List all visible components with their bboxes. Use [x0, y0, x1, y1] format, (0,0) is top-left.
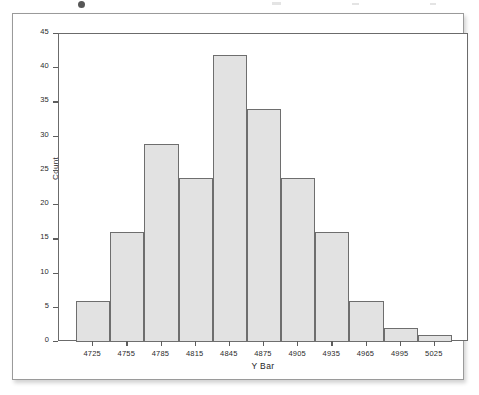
- histogram-bar: [281, 178, 315, 342]
- x-tick-mark: [92, 341, 93, 346]
- y-tick-label: 0: [45, 335, 49, 344]
- x-tick-mark: [263, 341, 264, 346]
- x-tick-mark: [331, 341, 332, 346]
- x-tick-mark: [229, 341, 230, 346]
- y-tick-label: 20: [40, 198, 49, 207]
- y-tick-label: 40: [40, 61, 49, 70]
- histogram-bar: [110, 232, 144, 342]
- histogram-bar: [349, 301, 383, 342]
- y-axis-tick: 10: [13, 273, 58, 274]
- chart-card: Count 051015202530354045 472547554785481…: [12, 13, 464, 380]
- histogram-bar: [247, 109, 281, 342]
- y-tick-label: 15: [40, 232, 49, 241]
- y-axis-tick: 0: [13, 341, 58, 342]
- y-tick-label: 35: [40, 95, 49, 104]
- x-tick-mark: [161, 341, 162, 346]
- y-axis-tick: 20: [13, 204, 58, 205]
- y-tick-label: 25: [40, 164, 49, 173]
- scan-artifacts: [0, 0, 479, 12]
- y-axis-tick: 35: [13, 101, 58, 102]
- histogram-bar: [179, 178, 213, 342]
- x-tick-mark: [434, 341, 435, 346]
- histogram-bar: [144, 144, 178, 342]
- x-tick-mark: [195, 341, 196, 346]
- plot-area: [58, 33, 468, 341]
- x-tick-mark: [297, 341, 298, 346]
- x-tick-mark: [366, 341, 367, 346]
- histogram-bar: [315, 232, 349, 342]
- x-tick-label: 5025: [414, 349, 454, 358]
- y-axis-tick: 30: [13, 136, 58, 137]
- y-tick-mark: [53, 341, 58, 342]
- y-tick-label: 5: [45, 301, 49, 310]
- x-axis-label: Y Bar: [58, 361, 468, 371]
- histogram-bar: [384, 328, 418, 342]
- histogram-bar: [76, 301, 110, 342]
- y-axis-tick: 5: [13, 307, 58, 308]
- y-tick-label: 10: [40, 267, 49, 276]
- histogram-bar: [213, 55, 247, 342]
- y-axis-tick: 40: [13, 67, 58, 68]
- y-axis-tick: 15: [13, 238, 58, 239]
- y-tick-label: 45: [40, 27, 49, 36]
- y-axis-tick: 25: [13, 170, 58, 171]
- y-tick-label: 30: [40, 130, 49, 139]
- x-tick-mark: [400, 341, 401, 346]
- y-axis-tick: 45: [13, 33, 58, 34]
- x-tick-mark: [126, 341, 127, 346]
